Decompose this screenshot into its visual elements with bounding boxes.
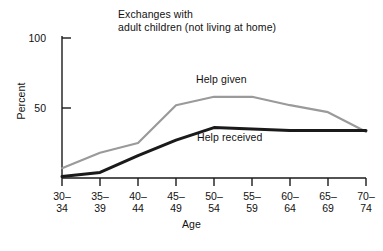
x-tick-label-5-top: 55– (237, 190, 267, 202)
x-tick-label-3: 45– 49 (161, 190, 191, 214)
x-tick-label-0-top: 30– (47, 190, 77, 202)
x-tick-label-4: 50– 54 (199, 190, 229, 214)
x-tick-label-6-bottom: 64 (275, 202, 305, 214)
x-tick-label-3-bottom: 49 (161, 202, 191, 214)
x-tick-label-7-top: 65– (313, 190, 343, 202)
x-tick-label-8: 70– 74 (351, 190, 381, 214)
x-tick-label-2: 40– 44 (123, 190, 153, 214)
x-tick-label-4-bottom: 54 (199, 202, 229, 214)
x-tick-label-2-top: 40– (123, 190, 153, 202)
series-label-help-received: Help received (197, 131, 263, 143)
x-tick-label-4-top: 50– (199, 190, 229, 202)
chart-figure: Exchanges with adult children (not livin… (0, 0, 383, 251)
x-tick-label-6: 60– 64 (275, 190, 305, 214)
x-tick-label-5: 55– 59 (237, 190, 267, 214)
x-tick-label-2-bottom: 44 (123, 202, 153, 214)
x-tick-label-1-top: 35– (85, 190, 115, 202)
x-tick-label-0: 30– 34 (47, 190, 77, 214)
x-tick-label-8-top: 70– (351, 190, 381, 202)
x-axis-label: Age (0, 218, 383, 230)
x-axis-ticks (62, 178, 366, 186)
x-tick-label-8-bottom: 74 (351, 202, 381, 214)
x-tick-label-7-bottom: 69 (313, 202, 343, 214)
x-tick-label-7: 65– 69 (313, 190, 343, 214)
x-tick-label-3-top: 45– (161, 190, 191, 202)
x-tick-label-1-bottom: 39 (85, 202, 115, 214)
x-tick-label-6-top: 60– (275, 190, 305, 202)
x-tick-label-1: 35– 39 (85, 190, 115, 214)
x-tick-label-5-bottom: 59 (237, 202, 267, 214)
x-tick-label-0-bottom: 34 (47, 202, 77, 214)
series-label-help-given: Help given (196, 73, 247, 85)
